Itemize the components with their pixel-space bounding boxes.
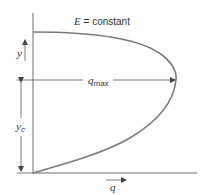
specific-energy-diagram: qmax yc y q E = constant	[0, 0, 207, 195]
title-label: E = constant	[73, 15, 130, 27]
energy-curve	[33, 32, 176, 173]
qmax-label: qmax	[88, 74, 109, 88]
q-axis-label: q	[110, 181, 116, 193]
y-axis-label: y	[16, 47, 22, 59]
